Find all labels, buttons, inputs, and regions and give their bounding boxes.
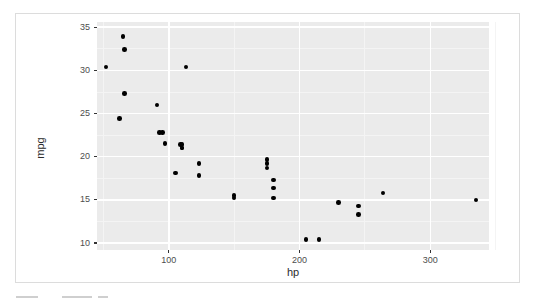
- data-point: [381, 191, 386, 196]
- data-point: [121, 34, 126, 39]
- y-tick-label: 15: [16, 195, 90, 204]
- x-tick-mark: [430, 250, 431, 253]
- ggplot-figure: 101520253035 100200300 mpg hp: [16, 14, 519, 282]
- data-point: [122, 47, 127, 52]
- y-tick-label: 10: [16, 239, 90, 248]
- y-tick-mark: [94, 156, 97, 157]
- plot-panel: [97, 22, 489, 250]
- footer-artifact-3: [98, 296, 108, 298]
- y-axis-title: mpg: [34, 137, 46, 158]
- data-point: [265, 166, 270, 171]
- data-point: [265, 157, 270, 162]
- x-tick-mark: [168, 250, 169, 253]
- data-point: [155, 103, 160, 108]
- data-point: [104, 65, 109, 70]
- data-point: [122, 91, 127, 96]
- data-point: [356, 204, 361, 209]
- data-point: [184, 65, 189, 70]
- y-tick-mark: [94, 242, 97, 243]
- data-point: [178, 142, 183, 147]
- data-point: [197, 173, 202, 178]
- data-point: [173, 171, 178, 176]
- data-point: [163, 141, 168, 146]
- footer-artifact-1: [16, 296, 38, 298]
- x-axis-title: hp: [97, 266, 489, 278]
- gridline-major-vertical: [430, 22, 431, 250]
- data-point: [317, 237, 322, 242]
- x-tick-label: 300: [423, 256, 438, 265]
- gridline-minor-vertical: [234, 22, 235, 250]
- data-point: [474, 198, 479, 203]
- gridline-minor-vertical: [495, 22, 496, 250]
- gridline-major-vertical: [299, 22, 300, 250]
- x-tick-label: 100: [161, 256, 176, 265]
- y-tick-mark: [94, 113, 97, 114]
- footer-artifacts: [0, 292, 554, 302]
- gridline-minor-vertical: [364, 22, 365, 250]
- data-point: [304, 237, 309, 242]
- y-tick-mark: [94, 27, 97, 28]
- data-point: [271, 178, 276, 183]
- y-tick-mark: [94, 70, 97, 71]
- y-tick-label: 25: [16, 109, 90, 118]
- x-tick-mark: [299, 250, 300, 253]
- data-point: [265, 161, 270, 166]
- data-point: [197, 161, 202, 166]
- gridline-minor-vertical: [103, 22, 104, 250]
- data-point: [271, 186, 276, 191]
- y-tick-label: 35: [16, 23, 90, 32]
- data-point: [336, 200, 341, 205]
- y-tick-label: 20: [16, 152, 90, 161]
- y-tick-label: 30: [16, 66, 90, 75]
- plot-card: 101520253035 100200300 mpg hp: [15, 13, 520, 283]
- gridline-major-vertical: [168, 22, 169, 250]
- x-tick-label: 200: [292, 256, 307, 265]
- data-point: [356, 212, 361, 217]
- screenshot-root: 101520253035 100200300 mpg hp: [0, 0, 554, 302]
- data-point: [160, 130, 165, 135]
- data-point: [117, 116, 122, 121]
- y-tick-mark: [94, 199, 97, 200]
- footer-artifact-2: [62, 296, 92, 298]
